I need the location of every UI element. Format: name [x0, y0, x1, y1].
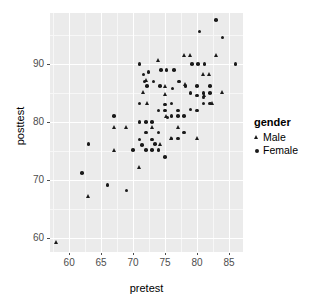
circle-marker-icon	[170, 114, 174, 118]
circle-marker-icon	[152, 80, 156, 84]
x-axis-tick-mark	[69, 253, 70, 255]
triangle-marker-icon	[141, 90, 145, 94]
circle-marker-icon	[202, 91, 206, 95]
circle-marker-icon	[214, 18, 218, 22]
triangle-marker-icon	[145, 101, 149, 105]
x-axis-tick-mark	[197, 253, 198, 255]
y-axis-title: posttest	[14, 66, 26, 186]
grid-line-minor-horizontal	[50, 209, 243, 210]
circle-marker-icon	[125, 189, 129, 193]
triangle-marker-icon	[137, 165, 141, 169]
circle-marker-icon	[198, 30, 202, 34]
triangle-marker-icon	[201, 72, 205, 76]
x-axis-tick-label: 75	[150, 258, 180, 268]
triangle-marker-icon	[252, 131, 263, 144]
legend: gender Male Female	[252, 116, 310, 157]
circle-marker-icon	[138, 62, 142, 66]
triangle-marker-icon	[124, 125, 128, 129]
triangle-marker-icon	[220, 90, 224, 94]
circle-marker-icon	[106, 183, 110, 187]
x-axis-tick-mark	[165, 253, 166, 255]
legend-item-male: Male	[252, 131, 310, 144]
circle-marker-icon	[138, 120, 142, 124]
x-axis-tick-label: 60	[54, 258, 84, 268]
circle-marker-icon	[153, 142, 157, 146]
circle-marker-icon	[190, 62, 194, 66]
grid-line-major-vertical	[229, 13, 230, 252]
y-axis-tick-mark	[47, 122, 49, 123]
circle-marker-icon	[176, 137, 180, 141]
triangle-marker-icon	[163, 92, 167, 96]
grid-line-minor-vertical	[117, 13, 118, 252]
circle-marker-icon	[176, 109, 180, 113]
circle-marker-icon	[182, 131, 186, 135]
legend-item-label: Male	[263, 131, 286, 144]
triangle-marker-icon	[163, 84, 167, 88]
grid-line-major-horizontal	[50, 238, 243, 239]
y-axis-tick-mark	[47, 64, 49, 65]
triangle-marker-icon	[188, 53, 192, 57]
x-axis-tick-label: 70	[118, 258, 148, 268]
circle-marker-icon	[182, 114, 186, 118]
triangle-marker-icon	[112, 125, 116, 129]
triangle-marker-icon	[207, 72, 211, 76]
grid-line-major-vertical	[133, 13, 134, 252]
triangle-marker-icon	[176, 125, 180, 129]
triangle-marker-icon	[150, 125, 154, 129]
triangle-marker-icon	[158, 142, 162, 146]
x-axis-tick-mark	[133, 253, 134, 255]
circle-marker-icon	[202, 96, 206, 100]
y-axis-tick-label: 60	[12, 233, 44, 243]
grid-line-major-horizontal	[50, 180, 243, 181]
circle-marker-icon	[208, 102, 212, 106]
plot-panel	[50, 13, 243, 252]
circle-marker-icon	[208, 84, 212, 88]
x-axis-tick-mark	[101, 253, 102, 255]
grid-line-minor-vertical	[85, 13, 86, 252]
circle-marker-icon	[166, 116, 170, 120]
legend-item-female: Female	[252, 144, 310, 157]
circle-marker-icon	[163, 155, 167, 159]
circle-marker-icon	[145, 84, 149, 88]
y-axis-tick-mark	[47, 238, 49, 239]
circle-marker-icon	[142, 73, 146, 77]
x-axis-tick-label: 80	[182, 258, 212, 268]
triangle-marker-icon	[214, 53, 218, 57]
circle-marker-icon	[176, 114, 180, 118]
circle-marker-icon	[221, 36, 225, 40]
circle-marker-icon	[195, 94, 199, 98]
circle-marker-icon	[150, 138, 154, 142]
circle-marker-icon	[163, 103, 167, 107]
grid-line-minor-horizontal	[50, 35, 243, 36]
circle-marker-icon	[131, 148, 135, 152]
grid-line-major-vertical	[165, 13, 166, 252]
circle-marker-icon	[172, 68, 176, 72]
triangle-marker-icon	[156, 58, 160, 62]
circle-marker-icon	[150, 148, 154, 152]
circle-marker-icon	[195, 84, 199, 88]
triangle-marker-icon	[195, 136, 199, 140]
circle-marker-icon	[144, 148, 148, 152]
circle-marker-icon	[189, 91, 193, 95]
circle-marker-icon	[87, 142, 91, 146]
triangle-marker-icon	[86, 194, 90, 198]
x-axis-tick-label: 85	[214, 258, 244, 268]
circle-marker-icon	[170, 102, 174, 106]
circle-marker-icon	[202, 102, 206, 106]
grid-line-major-vertical	[197, 13, 198, 252]
circle-marker-icon	[234, 62, 238, 66]
circle-marker-icon	[171, 87, 175, 91]
y-axis-tick-mark	[47, 180, 49, 181]
triangle-marker-icon	[54, 240, 58, 244]
circle-marker-icon	[143, 80, 147, 84]
grid-line-major-vertical	[101, 13, 102, 252]
circle-marker-icon	[157, 109, 161, 113]
triangle-marker-icon	[112, 148, 116, 152]
grid-line-minor-horizontal	[50, 93, 243, 94]
circle-marker-icon	[196, 62, 200, 66]
circle-marker-icon	[144, 131, 148, 135]
circle-marker-icon	[189, 108, 193, 112]
circle-marker-icon	[158, 84, 162, 88]
circle-marker-icon	[165, 68, 169, 72]
circle-marker-icon	[157, 131, 161, 135]
